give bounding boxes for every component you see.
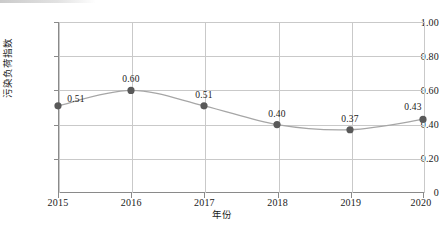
series-markers [54, 87, 426, 134]
pollution-load-index-line-chart: 污染负荷指数 1.00 0.80 0.60 0.40 0.20 0 2015 2… [0, 0, 439, 225]
data-label-2018: 0.40 [268, 109, 285, 119]
series-line-pollution-load-index [58, 90, 423, 130]
series-layer [0, 0, 439, 225]
data-point-2019 [346, 126, 353, 133]
data-label-2015: 0.51 [67, 94, 84, 104]
data-point-2016 [127, 87, 134, 94]
data-label-2020: 0.43 [404, 102, 421, 112]
data-point-2017 [200, 102, 207, 109]
data-label-2016: 0.60 [122, 74, 139, 84]
data-point-2018 [273, 121, 280, 128]
data-label-2019: 0.37 [341, 114, 358, 124]
data-point-2015 [54, 102, 61, 109]
data-label-2017: 0.51 [195, 90, 212, 100]
data-point-2020 [419, 116, 426, 123]
